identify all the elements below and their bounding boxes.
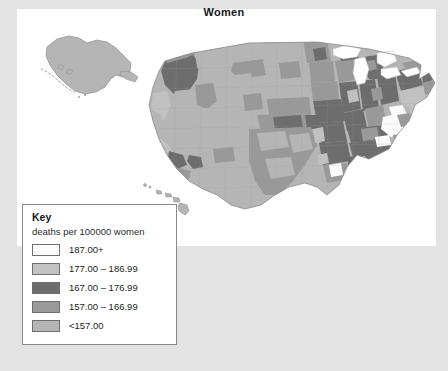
legend-swatch-157-166 xyxy=(32,301,60,313)
legend-label: <157.00 xyxy=(69,320,104,331)
legend-label: 187.00+ xyxy=(69,244,104,255)
legend-item: 177.00 – 186.99 xyxy=(32,259,168,278)
legend-item: 167.00 – 176.99 xyxy=(32,278,168,297)
figure-container: Women Key deaths per 100000 women 187.00… xyxy=(0,0,448,371)
legend-key: Key deaths per 100000 women 187.00+ 177.… xyxy=(22,204,177,345)
legend-swatch-177-186 xyxy=(32,263,60,275)
legend-swatch-187-plus xyxy=(32,244,60,256)
legend-label: 167.00 – 176.99 xyxy=(69,282,138,293)
legend-item: 157.00 – 166.99 xyxy=(32,297,168,316)
legend-label: 177.00 – 186.99 xyxy=(69,263,138,274)
legend-item: 187.00+ xyxy=(32,240,168,259)
legend-subtitle: deaths per 100000 women xyxy=(32,225,168,238)
map-region-lower48 xyxy=(142,37,436,217)
legend-swatch-under-157 xyxy=(32,320,60,332)
legend-item: <157.00 xyxy=(32,316,168,335)
page-title: Women xyxy=(0,6,448,18)
map-region-alaska xyxy=(41,36,138,98)
legend-swatch-167-176 xyxy=(32,282,60,294)
legend-title: Key xyxy=(32,211,168,224)
legend-label: 157.00 – 166.99 xyxy=(69,301,138,312)
